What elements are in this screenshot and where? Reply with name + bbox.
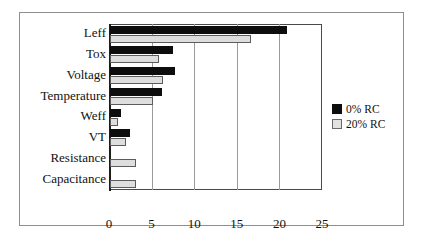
category-label-leff: Leff bbox=[84, 25, 106, 40]
bar-vt-series1 bbox=[110, 138, 126, 146]
bar-voltage-series0 bbox=[110, 67, 175, 75]
category-label-temperature: Temperature bbox=[41, 88, 107, 103]
bar-capacitance-series1 bbox=[110, 180, 136, 188]
bar-weff-series1 bbox=[110, 118, 118, 126]
bar-row: Temperature bbox=[109, 86, 322, 107]
legend-label-20pct-rc: 20% RC bbox=[346, 118, 385, 130]
bar-temperature-series0 bbox=[110, 88, 162, 96]
category-label-weff: Weff bbox=[81, 108, 106, 123]
legend-item: 0% RC bbox=[332, 101, 385, 116]
bar-row: Capacitance bbox=[109, 169, 322, 190]
legend-label-0pct-rc: 0% RC bbox=[346, 103, 380, 115]
bar-temperature-series1 bbox=[110, 97, 153, 105]
bar-row: VT bbox=[109, 128, 322, 149]
bar-row: Tox bbox=[109, 45, 322, 66]
chart-figure: LeffToxVoltageTemperatureWeffVTResistanc… bbox=[0, 0, 423, 238]
bar-row: Resistance bbox=[109, 149, 322, 170]
category-label-resistance: Resistance bbox=[50, 150, 106, 165]
bar-vt-series0 bbox=[110, 129, 130, 137]
bar-leff-series1 bbox=[110, 35, 251, 43]
x-tick-label-15: 15 bbox=[230, 216, 243, 232]
bar-tox-series1 bbox=[110, 55, 159, 63]
chart-legend: 0% RC 20% RC bbox=[332, 101, 385, 131]
category-label-tox: Tox bbox=[86, 46, 106, 61]
category-label-vt: VT bbox=[89, 129, 106, 144]
bar-weff-series0 bbox=[110, 109, 121, 117]
legend-item: 20% RC bbox=[332, 116, 385, 131]
category-label-voltage: Voltage bbox=[67, 67, 106, 82]
legend-swatch-0pct-rc bbox=[332, 104, 342, 114]
legend-swatch-20pct-rc bbox=[332, 119, 342, 129]
x-tick-label-0: 0 bbox=[106, 216, 113, 232]
x-tick-label-10: 10 bbox=[188, 216, 201, 232]
x-tick-label-5: 5 bbox=[148, 216, 155, 232]
bar-row: Weff bbox=[109, 107, 322, 128]
bar-resistance-series1 bbox=[110, 159, 136, 167]
bar-voltage-series1 bbox=[110, 76, 163, 84]
x-tick-label-20: 20 bbox=[273, 216, 286, 232]
category-label-capacitance: Capacitance bbox=[42, 171, 106, 186]
x-tick-label-25: 25 bbox=[316, 216, 329, 232]
bar-row: Voltage bbox=[109, 66, 322, 87]
bar-row: Leff bbox=[109, 24, 322, 45]
plot-area: LeffToxVoltageTemperatureWeffVTResistanc… bbox=[109, 24, 322, 190]
bar-tox-series0 bbox=[110, 46, 173, 54]
bar-leff-series0 bbox=[110, 26, 287, 34]
